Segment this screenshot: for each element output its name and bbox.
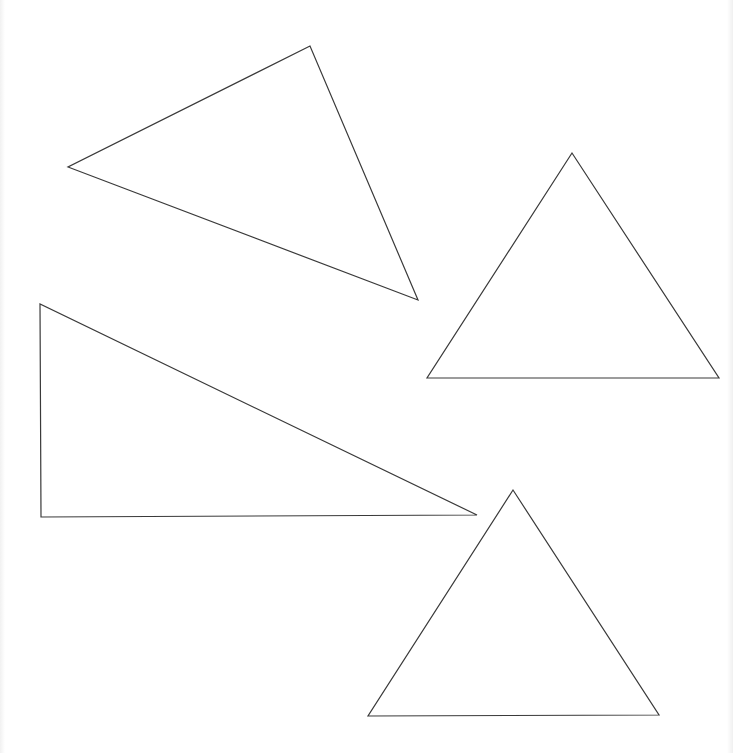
drawing-canvas <box>0 0 733 753</box>
triangle-scalene-top-left <box>68 46 418 300</box>
triangle-upright-right <box>427 153 719 378</box>
triangle-upright-bottom <box>368 490 659 716</box>
triangles-figure <box>0 0 733 753</box>
triangle-right-angle-left <box>40 304 477 517</box>
